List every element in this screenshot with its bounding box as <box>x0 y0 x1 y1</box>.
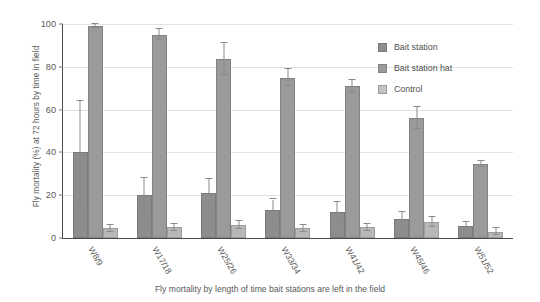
bar-group-bars <box>449 24 513 238</box>
x-axis-tick-label: W25/26 <box>215 245 238 276</box>
bar[interactable] <box>88 26 103 238</box>
error-bar-cap-bottom <box>284 85 291 86</box>
x-axis-tick-label: W33/34 <box>279 245 302 276</box>
error-bar-cap-top <box>92 23 99 24</box>
error-bar-cap-top <box>220 42 227 43</box>
x-axis-title: Fly mortality by length of time bait sta… <box>0 284 540 294</box>
bar-slot <box>88 24 103 238</box>
error-bar-cap-bottom <box>428 226 435 227</box>
bar-slot <box>152 24 167 238</box>
legend-label: Bait station <box>394 42 438 52</box>
bar-slot <box>137 24 152 238</box>
bar-slot <box>360 24 375 238</box>
error-bar-cap-top <box>477 160 484 161</box>
bar-group-bars <box>127 24 191 238</box>
legend-item[interactable]: Bait station <box>378 42 452 52</box>
bar-group: W33/34 <box>256 24 320 238</box>
error-bar <box>80 101 81 204</box>
y-axis-tick-label: 100 <box>41 19 56 29</box>
y-axis-tick-label: 20 <box>46 190 56 200</box>
chart-legend: Bait stationBait station hatControl <box>378 42 452 94</box>
error-bar-cap-top <box>77 100 84 101</box>
bar-slot <box>488 24 503 238</box>
error-bar-cap-bottom <box>299 231 306 232</box>
error-bar-cap-top <box>364 223 371 224</box>
bar-slot <box>167 24 182 238</box>
bar-slot <box>345 24 360 238</box>
bar-group-bars <box>192 24 256 238</box>
bar-group: W41/42 <box>320 24 384 238</box>
error-bar-cap-bottom <box>492 234 499 235</box>
error-bar-cap-top <box>334 201 341 202</box>
error-bar-cap-top <box>171 223 178 224</box>
error-bar-cap-top <box>269 198 276 199</box>
error-bar-cap-top <box>235 220 242 221</box>
bar[interactable] <box>345 86 360 238</box>
x-axis-tick-label: W45/46 <box>408 245 431 276</box>
error-bar-cap-bottom <box>334 222 341 223</box>
bar-slot <box>295 24 310 238</box>
error-bar <box>416 107 417 128</box>
bar[interactable] <box>473 164 488 238</box>
bar-chart: Fly mortality (%) at 72 hours by time in… <box>0 0 540 302</box>
y-axis-tick-label: 60 <box>46 105 56 115</box>
error-bar-cap-bottom <box>235 228 242 229</box>
bar-slot <box>473 24 488 238</box>
bar[interactable] <box>280 78 295 239</box>
error-bar <box>287 69 288 86</box>
error-bar-cap-top <box>413 106 420 107</box>
error-bar-cap-bottom <box>92 27 99 28</box>
error-bar <box>223 43 224 75</box>
error-bar-cap-top <box>141 177 148 178</box>
bar-group-bars <box>63 24 127 238</box>
error-bar-cap-top <box>428 216 435 217</box>
error-bar <box>144 178 145 212</box>
bar-slot <box>330 24 345 238</box>
error-bar-cap-top <box>156 28 163 29</box>
error-bar-cap-bottom <box>477 166 484 167</box>
y-axis-tick-label: 0 <box>51 233 56 243</box>
error-bar-cap-bottom <box>156 39 163 40</box>
bar-slot <box>216 24 231 238</box>
bar-group-bars <box>320 24 384 238</box>
x-axis-tick-label: W41/42 <box>344 245 367 276</box>
error-bar-cap-bottom <box>171 230 178 231</box>
error-bar-cap-bottom <box>462 230 469 231</box>
error-bar-cap-top <box>107 224 114 225</box>
legend-item[interactable]: Bait station hat <box>378 63 452 73</box>
bar-slot <box>458 24 473 238</box>
error-bar-cap-top <box>398 211 405 212</box>
bar[interactable] <box>152 35 167 238</box>
error-bar-cap-top <box>299 224 306 225</box>
error-bar-cap-top <box>462 221 469 222</box>
legend-swatch-icon <box>378 64 387 73</box>
error-bar-cap-top <box>284 68 291 69</box>
error-bar-cap-bottom <box>205 206 212 207</box>
error-bar-cap-bottom <box>364 230 371 231</box>
bar-slot <box>280 24 295 238</box>
y-axis-tick-label: 40 <box>46 147 56 157</box>
bar-group: W8/9 <box>63 24 127 238</box>
error-bar-cap-bottom <box>398 224 405 225</box>
error-bar-cap-bottom <box>269 220 276 221</box>
bar-group: W25/26 <box>192 24 256 238</box>
bar[interactable] <box>216 59 231 238</box>
legend-swatch-icon <box>378 85 387 94</box>
bar-group-bars <box>256 24 320 238</box>
x-axis-tick-label: W17/18 <box>151 245 174 276</box>
x-axis-tick-label: W51/52 <box>472 245 495 276</box>
error-bar-cap-bottom <box>349 91 356 92</box>
legend-item[interactable]: Control <box>378 84 452 94</box>
bar[interactable] <box>409 118 424 238</box>
error-bar-cap-bottom <box>141 211 148 212</box>
x-axis-tick-label: W8/9 <box>86 245 105 267</box>
error-bar-cap-top <box>492 227 499 228</box>
bar-slot <box>201 24 216 238</box>
bar-group: W17/18 <box>127 24 191 238</box>
bar-slot <box>231 24 246 238</box>
legend-swatch-icon <box>378 43 387 52</box>
legend-label: Control <box>394 84 422 94</box>
error-bar-cap-bottom <box>220 74 227 75</box>
error-bar <box>272 200 273 221</box>
error-bar-cap-top <box>205 178 212 179</box>
